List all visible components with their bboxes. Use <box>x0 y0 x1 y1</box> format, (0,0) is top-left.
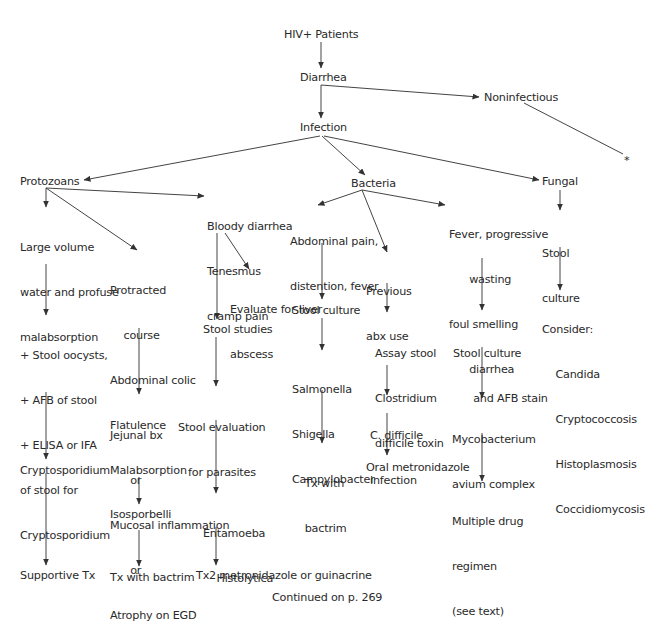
node-text: Abdominal colic <box>110 373 196 388</box>
node-text: regimen <box>452 559 523 574</box>
node-text: Stool culture <box>292 303 360 318</box>
node-text: Fungal <box>542 174 578 189</box>
footer-continued: Continued on p. 269 <box>272 590 382 605</box>
node-text: + AFB of stool <box>20 393 110 408</box>
node-text: + ELISA or IFA <box>20 438 110 453</box>
node-text: Coccidiomycosis <box>542 502 645 517</box>
node-text: Stool <box>542 246 580 261</box>
node-text: Entamoeba <box>203 526 273 541</box>
node-tx-bactrim-bacteria: Tx with bactrim <box>298 446 346 566</box>
node-text: + Stool oocysts, <box>20 348 110 363</box>
node-text: Bloody diarrhea <box>207 219 292 234</box>
node-stool-studies: Stool studies <box>203 322 272 337</box>
node-tx-bactrim-protozoa: Tx with bactrim <box>110 570 194 585</box>
node-c-difficile: C. difficile infection <box>370 398 423 518</box>
node-text: wasting <box>449 272 548 287</box>
node-fungal: Fungal <box>542 174 578 189</box>
node-text: Tx with <box>298 476 346 491</box>
arrow-infection-fungal <box>324 136 539 180</box>
node-text: Large volume <box>20 240 119 255</box>
arrow-infection-bacteria <box>322 136 365 175</box>
node-text: for parasites <box>178 465 266 480</box>
node-text: Supportive Tx <box>20 568 95 583</box>
node-text: Histoplasmosis <box>542 457 645 472</box>
node-text: Mycobacterium <box>452 432 536 447</box>
node-text: (see text) <box>452 604 523 619</box>
node-text: infection <box>370 473 423 488</box>
arrow-protozoans-bloody <box>46 188 204 196</box>
node-text: Consider: <box>542 322 645 337</box>
node-text: Multiple drug <box>452 514 523 529</box>
node-noninfectious: Noninfectious <box>484 90 558 105</box>
node-text: Oral metronidazole <box>366 460 470 475</box>
node-text: Previous <box>366 284 412 299</box>
node-text: C. difficile <box>370 428 423 443</box>
line-noninfectious-asterisk <box>524 103 623 154</box>
node-hiv-patients: HIV+ Patients <box>284 27 358 42</box>
node-text: Stool culture <box>453 346 548 361</box>
node-multiple-drug-regimen: Multiple drug regimen (see text) <box>452 484 523 625</box>
node-text: Cryptosporidium <box>20 463 110 478</box>
node-oral-metronidazole: Oral metronidazole <box>366 460 470 475</box>
node-text: Salmonella <box>292 382 375 397</box>
node-diarrhea: Diarrhea <box>300 70 347 85</box>
node-text: Tx with bactrim <box>110 570 194 585</box>
node-bacteria: Bacteria <box>351 176 396 191</box>
node-text: bactrim <box>298 521 346 536</box>
node-infection: Infection <box>300 120 347 135</box>
node-text: Assay stool <box>375 346 444 361</box>
node-text: Infection <box>300 120 347 135</box>
node-text: Candida <box>542 367 645 382</box>
node-tx2-metronidazole: Tx2 metronidazole or guinacrine <box>196 568 372 583</box>
node-entamoeba: Entamoeba Histolytica <box>203 496 273 616</box>
arrow-diarrhea-noninfectious <box>321 85 479 97</box>
arrow-infection-protozoans <box>84 136 320 180</box>
node-text: Cryptosporidium <box>20 528 110 543</box>
node-text: * <box>624 153 629 168</box>
node-asterisk: * <box>624 153 629 168</box>
node-cryptosporidium: Cryptosporidium <box>20 463 110 478</box>
node-supportive-tx: Supportive Tx <box>20 568 95 583</box>
node-text: Stool evaluation <box>178 420 266 435</box>
node-stool-oocysts: + Stool oocysts, + AFB of stool + ELISA … <box>20 318 110 573</box>
node-text: course <box>110 328 196 343</box>
node-text: Stool studies <box>203 322 272 337</box>
node-stool-eval-parasites: Stool evaluation for parasites <box>178 390 266 510</box>
node-text: water and profuse <box>20 285 119 300</box>
node-text: Diarrhea <box>300 70 347 85</box>
node-isosporbelli: Isosporbelli <box>110 507 171 522</box>
arrow-bacteria-fever <box>362 190 445 205</box>
node-text: Bacteria <box>351 176 396 191</box>
node-stool-culture-bacteria: Stool culture <box>292 303 360 318</box>
node-text: Protracted <box>110 283 196 298</box>
node-text: Noninfectious <box>484 90 558 105</box>
node-text: Isosporbelli <box>110 507 171 522</box>
node-consider-fungal: Consider: Candida Cryptococcosis Histopl… <box>542 292 645 547</box>
node-text: Abdominal pain, <box>290 234 378 249</box>
node-text: Fever, progressive <box>449 227 548 242</box>
node-text: Shigella <box>292 427 375 442</box>
node-text: Cryptococcosis <box>542 412 645 427</box>
node-protozoans: Protozoans <box>20 174 79 189</box>
node-text: Protozoans <box>20 174 79 189</box>
node-text: HIV+ Patients <box>284 27 358 42</box>
arrow-bacteria-abdominal <box>318 190 362 205</box>
node-text: Tx2 metronidazole or guinacrine <box>196 568 372 583</box>
node-text: of stool for <box>20 483 110 498</box>
footer-text: Continued on p. 269 <box>272 590 382 605</box>
